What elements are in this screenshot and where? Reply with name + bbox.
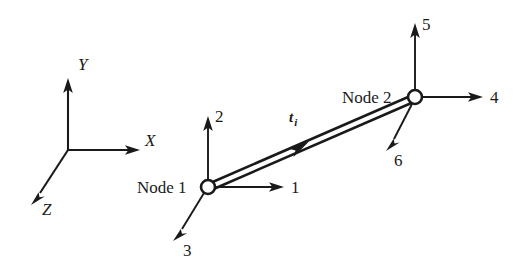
z-axis-label: Z bbox=[42, 200, 52, 219]
figure-root: Y X Z ti bbox=[0, 0, 531, 276]
node-1-dof-3-arrowhead bbox=[173, 229, 187, 241]
frame-element: ti bbox=[208, 94, 416, 191]
node-2-dof-5: 5 bbox=[410, 15, 430, 90]
frame-element-vector-label: ti bbox=[289, 109, 298, 128]
frame-element-lower-edge bbox=[209, 101, 416, 191]
node-2-dof-6: 6 bbox=[386, 104, 412, 170]
x-axis-label: X bbox=[144, 131, 156, 150]
node-1-marker[interactable] bbox=[201, 180, 215, 194]
node-2-dof-4-label: 4 bbox=[490, 88, 499, 107]
node-1-dof-3-shaft bbox=[182, 193, 204, 229]
node-1[interactable]: 1 2 3 Node 1 bbox=[137, 107, 300, 260]
node-1-label: Node 1 bbox=[137, 178, 187, 197]
node-2-dof-5-label: 5 bbox=[422, 15, 431, 34]
node-1-dof-1-label: 1 bbox=[291, 178, 300, 197]
node-2-dof-4: 4 bbox=[422, 88, 499, 107]
node-2-dof-6-arrowhead bbox=[386, 138, 400, 151]
node-1-dof-1: 1 bbox=[215, 178, 300, 197]
node-2-label: Node 2 bbox=[342, 88, 392, 107]
node-1-dof-3-label: 3 bbox=[183, 241, 192, 260]
y-axis: Y bbox=[63, 55, 89, 150]
node-1-dof-2: 2 bbox=[203, 107, 223, 180]
frame-element-upper-edge bbox=[208, 94, 415, 184]
node-2-marker[interactable] bbox=[408, 90, 422, 104]
node-2[interactable]: 4 5 6 Node 2 bbox=[342, 15, 499, 170]
node-1-dof-3: 3 bbox=[173, 193, 204, 260]
z-axis-shaft bbox=[40, 150, 68, 193]
z-axis: Z bbox=[31, 150, 68, 219]
frame-element-vector-subscript: i bbox=[294, 116, 298, 128]
node-1-dof-2-label: 2 bbox=[215, 107, 224, 126]
x-axis: X bbox=[68, 131, 156, 155]
node-2-dof-6-label: 6 bbox=[394, 151, 403, 170]
y-axis-label: Y bbox=[78, 55, 89, 74]
frame-element-diagram: Y X Z ti bbox=[0, 0, 531, 276]
